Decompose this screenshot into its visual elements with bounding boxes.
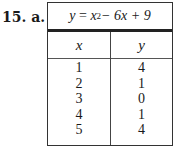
x-cell: 1: [76, 60, 83, 76]
x-column: 1 2 3 4 5: [48, 60, 110, 138]
table-title-equation: y = x2 − 6x + 9: [48, 3, 172, 32]
y-column: 4 1 0 1 4: [111, 60, 172, 138]
x-cell: 3: [76, 91, 83, 107]
y-cell: 0: [138, 91, 145, 107]
problem-label: 15. a.: [2, 9, 45, 25]
value-table: y = x2 − 6x + 9 x y 1 2 3 4 5 4 1 0 1 4: [47, 2, 173, 146]
y-cell: 1: [138, 107, 145, 123]
y-cell: 1: [138, 76, 145, 92]
header-x: x: [48, 32, 110, 58]
y-cell: 4: [138, 122, 145, 138]
x-cell: 5: [76, 122, 83, 138]
header-y: y: [111, 32, 172, 58]
x-cell: 2: [76, 76, 83, 92]
x-cell: 4: [76, 107, 83, 123]
problem-part: a.: [31, 9, 45, 25]
problem-number: 15.: [2, 9, 26, 25]
y-cell: 4: [138, 60, 145, 76]
